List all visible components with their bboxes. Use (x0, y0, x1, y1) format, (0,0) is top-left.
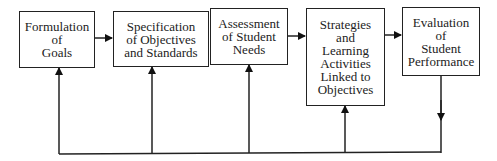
node-formulation-of-goals: Formulation of Goals (19, 11, 95, 68)
node-strategies-and-learning-activities: Strategies and Learning Activities Linke… (306, 8, 385, 106)
node-label: Assessment of Student Needs (218, 17, 279, 56)
node-label: Formulation of Goals (25, 20, 89, 59)
feedback-line (59, 152, 441, 154)
node-label: Strategies and Learning Activities Linke… (318, 18, 374, 96)
node-assessment-of-student-needs: Assessment of Student Needs (210, 8, 288, 65)
node-specification-of-objectives: Specification of Objectives and Standard… (113, 11, 209, 67)
node-evaluation-of-student-performance: Evaluation of Student Performance (402, 7, 480, 76)
node-label: Specification of Objectives and Standard… (124, 20, 197, 59)
node-label: Evaluation of Student Performance (408, 16, 474, 68)
